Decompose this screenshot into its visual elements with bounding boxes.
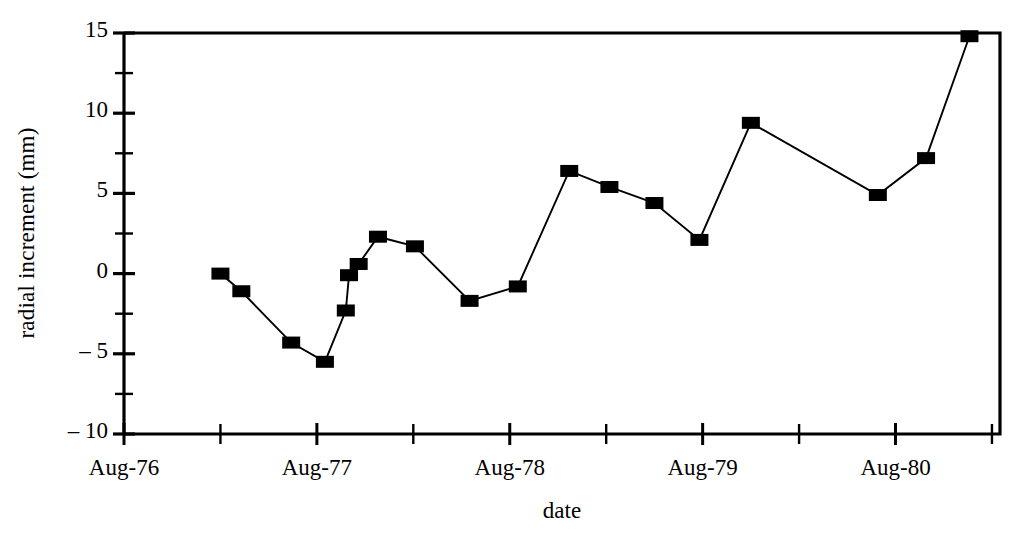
data-point-marker <box>509 280 527 292</box>
y-tick-label: 10 <box>28 97 108 123</box>
data-point-marker <box>282 337 300 349</box>
data-point-marker <box>869 189 887 201</box>
x-tick-label: Aug-77 <box>237 455 397 481</box>
data-point-marker <box>600 181 618 193</box>
data-point-marker <box>960 30 978 42</box>
data-point-marker <box>645 197 663 209</box>
data-point-marker <box>369 231 387 243</box>
y-tick-label: 15 <box>28 17 108 43</box>
data-point-marker <box>337 304 355 316</box>
data-point-marker <box>211 268 229 280</box>
data-point-marker <box>917 152 935 164</box>
x-tick-label: Aug-80 <box>816 455 976 481</box>
data-point-marker <box>742 117 760 129</box>
series-line <box>220 36 969 362</box>
data-point-marker <box>690 234 708 246</box>
data-point-marker <box>560 165 578 177</box>
axes-frame <box>124 33 1000 434</box>
chart-figure: radial increment (mm) date 151050– 5– 10… <box>0 0 1036 549</box>
y-tick-label: – 5 <box>28 338 108 364</box>
data-point-marker <box>350 258 368 270</box>
data-point-marker <box>340 269 358 281</box>
data-point-marker <box>316 356 334 368</box>
data-point-marker <box>461 295 479 307</box>
data-point-marker <box>406 240 424 252</box>
y-tick-label: – 10 <box>28 418 108 444</box>
x-tick-label: Aug-79 <box>623 455 783 481</box>
x-tick-label: Aug-76 <box>44 455 204 481</box>
data-point-marker <box>232 285 250 297</box>
x-tick-label: Aug-78 <box>430 455 590 481</box>
y-tick-label: 5 <box>28 177 108 203</box>
y-tick-label: 0 <box>28 258 108 284</box>
